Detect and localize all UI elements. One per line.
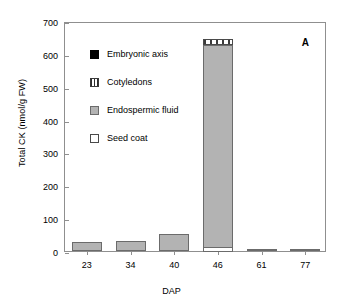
legend-label: Endospermic fluid: [107, 105, 179, 115]
legend-swatch-icon: [90, 78, 99, 87]
bar-stack: [116, 241, 146, 251]
y-tick-mark: [65, 89, 69, 90]
chart-legend: Embryonic axisCotyledonsEndospermic flui…: [90, 47, 179, 159]
y-tick-mark: [65, 154, 69, 155]
bar-stack: [159, 234, 189, 251]
x-tick-label: 61: [242, 260, 282, 270]
bar-segment: [203, 247, 233, 252]
y-tick-label: 600: [7, 56, 65, 57]
x-tick-label: 46: [198, 260, 238, 270]
legend-swatch-icon: [90, 134, 99, 143]
bar-segment: [290, 249, 320, 251]
bar-stack: [247, 249, 277, 251]
y-tick-mark: [65, 187, 69, 188]
bar-stack: [203, 39, 233, 251]
bar-segment: [72, 242, 102, 251]
y-tick-label: 700: [7, 23, 65, 24]
y-tick-mark: [65, 220, 69, 221]
y-axis-label: Total CK (nmol/g FW): [17, 33, 27, 213]
y-tick-label: 0: [7, 253, 65, 254]
x-axis-label: DAP: [0, 286, 343, 296]
x-tick-label: 23: [67, 260, 107, 270]
legend-label: Embryonic axis: [107, 49, 168, 59]
bar-segment: [247, 249, 277, 251]
x-tick-mark: [131, 251, 132, 255]
y-tick-label: 400: [7, 122, 65, 123]
legend-label: Cotyledons: [107, 77, 152, 87]
bar-segment: [203, 45, 233, 249]
y-tick-label: 300: [7, 154, 65, 155]
legend-label: Seed coat: [107, 133, 148, 143]
legend-swatch-icon: [90, 106, 99, 115]
legend-item: Seed coat: [90, 131, 179, 145]
bar-segment: [116, 241, 146, 251]
y-tick-label: 100: [7, 220, 65, 221]
y-tick-label: 200: [7, 187, 65, 188]
y-tick-mark: [65, 56, 69, 57]
legend-item: Embryonic axis: [90, 47, 179, 61]
chart-figure: Total CK (nmol/g FW) DAP 010020030040050…: [0, 0, 343, 308]
x-tick-mark: [305, 251, 306, 255]
legend-swatch-icon: [90, 50, 99, 59]
legend-item: Endospermic fluid: [90, 103, 179, 117]
panel-label: A: [302, 37, 309, 48]
plot-area: 0100200300400500600700 233440466177 Embr…: [64, 22, 326, 252]
x-tick-mark: [262, 251, 263, 255]
y-tick-label: 500: [7, 89, 65, 90]
x-tick-mark: [87, 251, 88, 255]
x-tick-mark: [174, 251, 175, 255]
x-tick-label: 34: [111, 260, 151, 270]
y-tick-mark: [65, 122, 69, 123]
x-tick-label: 40: [154, 260, 194, 270]
y-tick-mark: [65, 253, 69, 254]
bar-stack: [290, 249, 320, 251]
bar-segment: [159, 234, 189, 251]
x-tick-label: 77: [285, 260, 325, 270]
legend-item: Cotyledons: [90, 75, 179, 89]
bar-stack: [72, 242, 102, 251]
y-tick-mark: [65, 23, 69, 24]
